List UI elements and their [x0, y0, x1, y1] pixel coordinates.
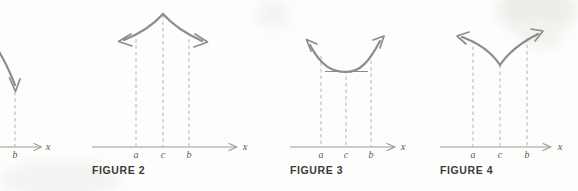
x-axis-label: x	[557, 141, 563, 152]
curve-left-branch	[462, 37, 500, 65]
tick-label-b: b	[13, 149, 18, 160]
x-axis-label: x	[45, 141, 51, 152]
tick-label-c: c	[344, 149, 349, 160]
curve-left-branch	[124, 14, 163, 40]
x-axis-label: x	[400, 141, 406, 152]
figure-2: a c b x	[88, 0, 263, 191]
figure-4: a c b x	[438, 0, 578, 191]
figure-3-caption: FIGURE 3	[290, 164, 343, 176]
tick-label-a: a	[134, 149, 139, 160]
tick-label-b: b	[369, 149, 374, 160]
figure-1-partial: b x	[0, 0, 60, 191]
curve-right-branch	[500, 34, 538, 65]
figure-strip: b x a c b x FIGURE 2	[0, 0, 578, 191]
figure-3: a c b x	[288, 0, 418, 191]
tick-label-c: c	[161, 149, 166, 160]
tick-label-a: a	[319, 149, 324, 160]
tick-label-b: b	[525, 149, 530, 160]
curve-decreasing	[0, 40, 15, 85]
tick-label-a: a	[471, 149, 476, 160]
x-axis-label: x	[242, 141, 248, 152]
figure-4-caption: FIGURE 4	[440, 164, 493, 176]
figure-2-caption: FIGURE 2	[92, 164, 145, 176]
tick-label-b: b	[187, 149, 192, 160]
tick-label-c: c	[498, 149, 503, 160]
curve-right-branch	[163, 14, 202, 41]
